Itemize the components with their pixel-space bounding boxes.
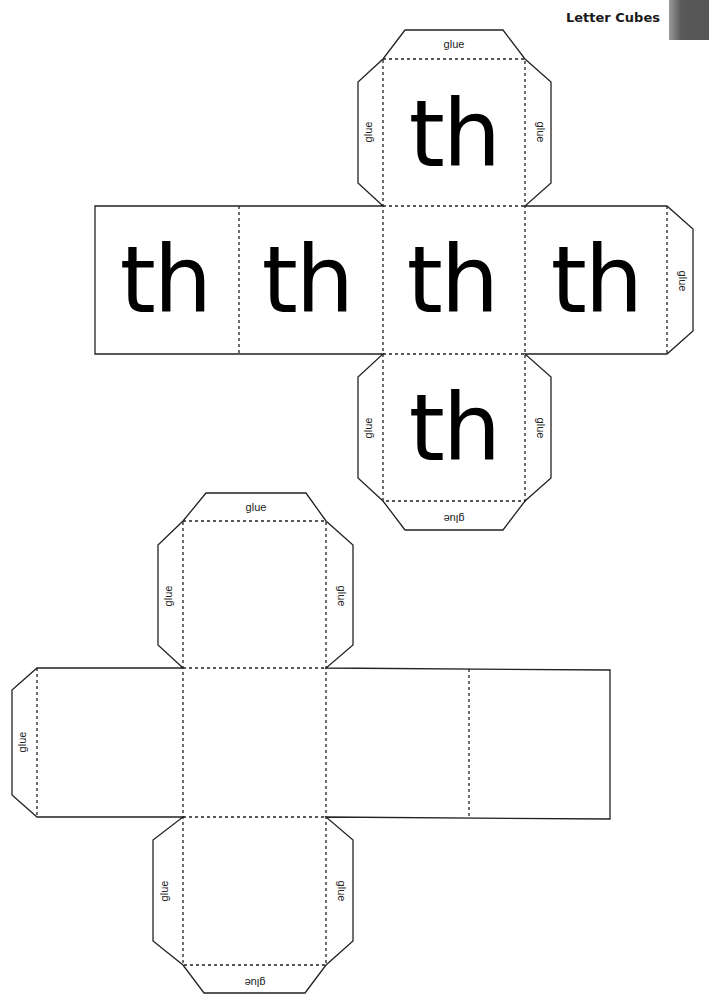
cube-nets-sheet: glue glue glue glue glue glue glue th th… — [0, 0, 709, 1004]
face-letters-bottom: th — [409, 375, 499, 482]
face-letters-far-left: th — [120, 227, 210, 334]
glue-label: glue — [336, 586, 348, 607]
glue-label: glue — [444, 513, 465, 525]
glue-label: glue — [535, 418, 547, 439]
glue-label: glue — [336, 881, 348, 902]
glue-label: glue — [245, 977, 266, 989]
face-letters-center: th — [407, 227, 497, 334]
glue-label: glue — [362, 418, 374, 439]
face-letters-right: th — [551, 227, 641, 334]
glue-label: glue — [362, 122, 374, 143]
glue-label: glue — [677, 271, 689, 292]
cube-net-1: glue glue glue glue glue glue glue th th… — [95, 30, 693, 530]
glue-label: glue — [444, 38, 465, 50]
cube-net-2: glue glue glue glue glue glue glue — [12, 493, 610, 993]
cube-2-cut-lines — [12, 493, 610, 993]
face-letters-left: th — [262, 227, 352, 334]
face-letters-top: th — [409, 81, 499, 188]
glue-label: glue — [16, 732, 28, 753]
glue-label: glue — [246, 501, 267, 513]
glue-label: glue — [158, 881, 170, 902]
glue-label: glue — [162, 586, 174, 607]
glue-label: glue — [535, 122, 547, 143]
cube-2-fold-lines — [37, 521, 469, 965]
